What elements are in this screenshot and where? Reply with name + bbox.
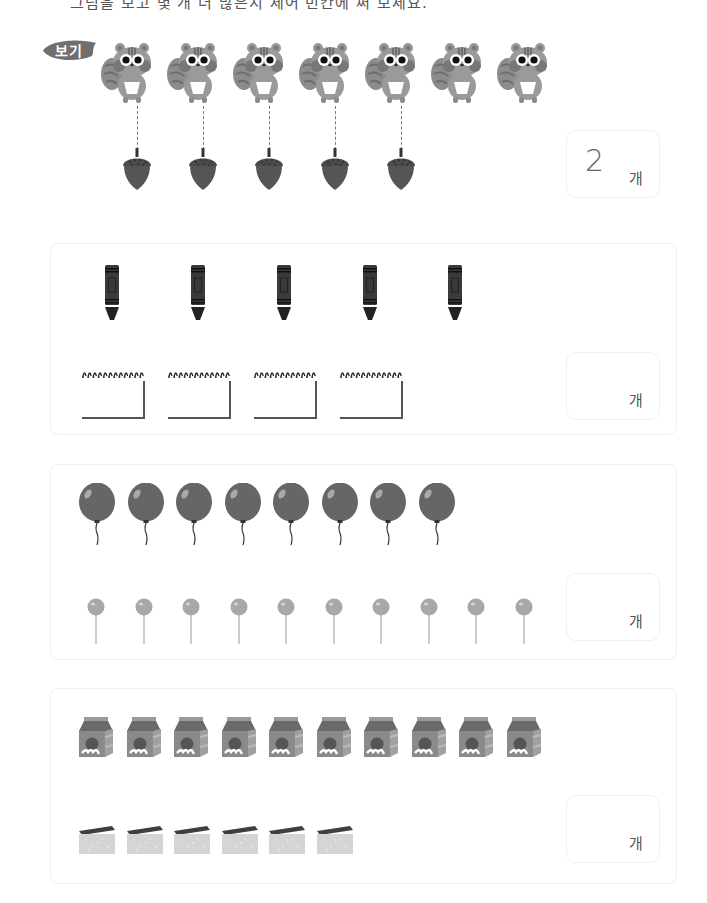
crayon-icon (276, 265, 292, 321)
lollipop-icon (419, 598, 439, 644)
acorn-icon (121, 148, 153, 190)
lollipop-icon (86, 598, 106, 644)
matching-dashed-line (137, 106, 138, 150)
milk-icon (268, 715, 306, 759)
crayon-icon (190, 265, 206, 321)
sponge-icon (78, 825, 116, 855)
squirrel-icon (100, 40, 162, 104)
milk-icon (458, 715, 496, 759)
lollipop-icon (514, 598, 534, 644)
crayon-icon (362, 265, 378, 321)
lollipop-icon (134, 598, 154, 644)
crayon-icon (104, 265, 120, 321)
matching-dashed-line (269, 106, 270, 150)
notepad-icon (166, 369, 234, 421)
lollipop-icon (324, 598, 344, 644)
acorn-icon (385, 148, 417, 190)
acorn-icon (187, 148, 219, 190)
lollipop-icon (229, 598, 249, 644)
matching-dashed-line (203, 106, 204, 150)
milk-icon (411, 715, 449, 759)
example-answer-box: 2 개 (566, 130, 660, 198)
balloon-icon (126, 483, 166, 547)
milk-icon (173, 715, 211, 759)
example-badge-label: 보기 (40, 40, 98, 60)
milk-icon (221, 715, 259, 759)
squirrel-icon (232, 40, 294, 104)
milk-icon (363, 715, 401, 759)
answer-unit: 개 (629, 832, 643, 853)
acorn-icon (319, 148, 351, 190)
lollipop-icon (466, 598, 486, 644)
answer-box-milk-sponges[interactable]: 개 (566, 795, 660, 863)
squirrel-icon (496, 40, 558, 104)
sponge-icon (221, 825, 259, 855)
example-answer-unit: 개 (629, 167, 643, 188)
squirrel-icon (298, 40, 360, 104)
milk-icon (78, 715, 116, 759)
sponge-icon (268, 825, 306, 855)
answer-unit: 개 (629, 610, 643, 631)
milk-icon (506, 715, 544, 759)
notepad-icon (252, 369, 320, 421)
balloon-icon (77, 483, 117, 547)
answer-box-balloons-lollipops[interactable]: 개 (566, 573, 660, 641)
acorn-icon (253, 148, 285, 190)
balloon-icon (320, 483, 360, 547)
squirrel-icon (364, 40, 426, 104)
balloon-icon (223, 483, 263, 547)
balloon-icon (417, 483, 457, 547)
answer-unit: 개 (629, 389, 643, 410)
balloon-icon (368, 483, 408, 547)
example-badge: 보기 (40, 38, 98, 62)
notepad-icon (80, 369, 148, 421)
milk-icon (126, 715, 164, 759)
sponge-icon (316, 825, 354, 855)
squirrel-icon (430, 40, 492, 104)
squirrel-icon (166, 40, 228, 104)
milk-icon (316, 715, 354, 759)
notepad-icon (338, 369, 406, 421)
balloon-icon (174, 483, 214, 547)
matching-dashed-line (335, 106, 336, 150)
crayon-icon (447, 265, 463, 321)
example-answer-value: 2 (585, 143, 604, 178)
sponge-icon (126, 825, 164, 855)
answer-box-crayons-notepads[interactable]: 개 (566, 352, 660, 420)
lollipop-icon (276, 598, 296, 644)
balloon-icon (271, 483, 311, 547)
lollipop-icon (181, 598, 201, 644)
lollipop-icon (371, 598, 391, 644)
instruction-text-cropped: 그림을 보고 몇 개 더 많은지 세어 빈칸에 써 보세요. (70, 0, 550, 3)
sponge-icon (173, 825, 211, 855)
matching-dashed-line (401, 106, 402, 150)
